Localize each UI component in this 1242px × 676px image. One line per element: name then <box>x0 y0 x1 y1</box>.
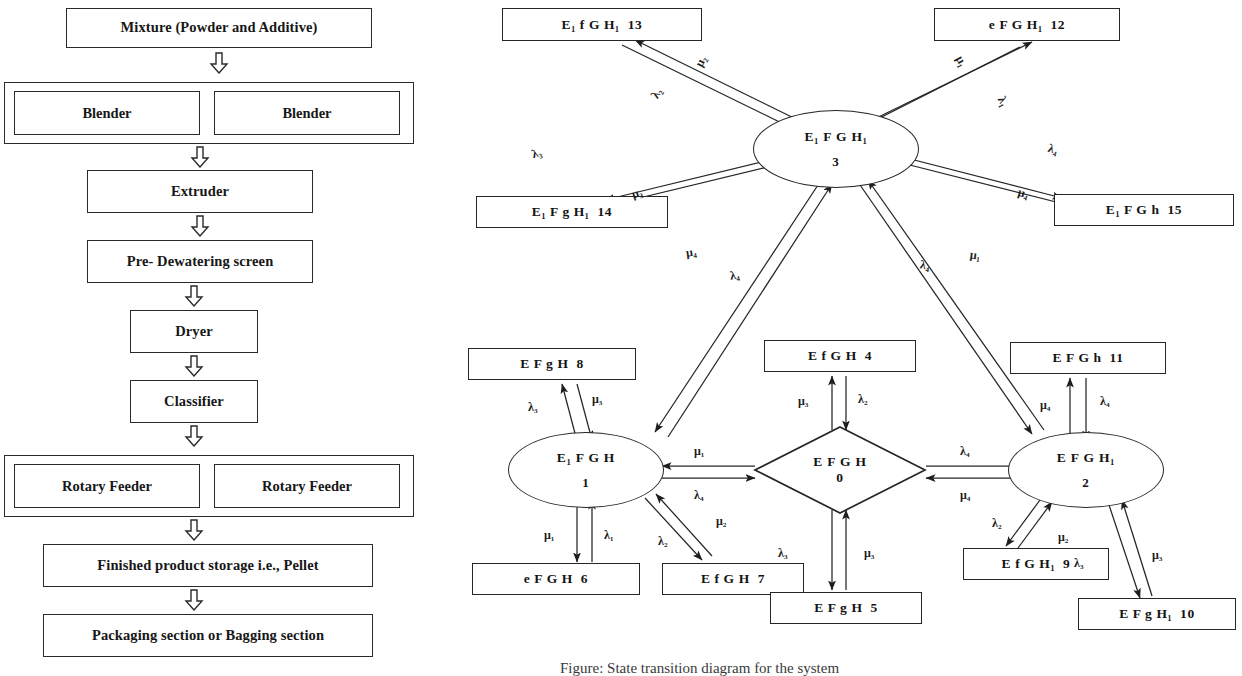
flow-step-dryer: Dryer <box>130 310 258 353</box>
edge-label-lambda4-node1-node0: λ₄ <box>694 488 704 503</box>
flow-step-label: Classifier <box>164 394 224 410</box>
edge-label-mu4-node0-node2: μ₄ <box>960 488 970 503</box>
flow-step-finished-product-storage: Finished product storage i.e., Pellet <box>43 544 373 587</box>
state-node-text: E₁ F G H₁ <box>804 129 867 145</box>
edge-label-mu1-node1-node0: μ₁ <box>694 444 704 459</box>
state-node-id: 1 <box>582 475 589 491</box>
state-node-text: E F g H₁ 10 <box>1119 606 1195 622</box>
state-node-id: 2 <box>1082 475 1089 491</box>
edge-label-mu2-node7: μ₂ <box>716 514 726 529</box>
state-node-4[interactable]: E f G H 4 <box>764 340 916 372</box>
state-node-label-group: E F G H 0 <box>752 424 928 516</box>
flow-step-mixture: Mixture (Powder and Additive) <box>66 8 372 48</box>
state-node-10[interactable]: E F g H₁ 10 <box>1078 598 1236 630</box>
state-node-6[interactable]: e F G H 6 <box>472 563 640 595</box>
flow-step-label: Blender <box>282 105 331 122</box>
state-node-7[interactable]: E f G H 7 <box>662 563 804 595</box>
down-block-arrow-icon <box>184 425 204 447</box>
state-node-5[interactable]: E F g H 5 <box>770 592 922 624</box>
edge-label-lambda3-node8: λ₃ <box>528 400 538 415</box>
state-node-text: E F g H 8 <box>520 356 584 372</box>
state-node-text: E₁ f G H₁ 13 <box>562 17 643 33</box>
flow-step-rotary-feeder-right: Rotary Feeder <box>214 464 400 508</box>
flow-step-label: Finished product storage i.e., Pellet <box>97 558 318 574</box>
flow-step-label: Pre- Dewatering screen <box>127 254 274 270</box>
edge-label-lambda3-node10: λ₃ <box>1074 556 1084 571</box>
down-block-arrow-icon <box>209 52 229 74</box>
edge-label-mu4-center-left: μ₄ <box>685 244 697 260</box>
flow-step-extruder: Extruder <box>87 170 313 213</box>
edge-label-lambda2-node7: λ₂ <box>658 534 668 549</box>
flow-step-pre-dewatering-screen: Pre- Dewatering screen <box>87 240 313 283</box>
edge-label-lambda4-center-left: λ₄ <box>729 267 740 283</box>
state-node-text: E F G h 11 <box>1052 350 1123 366</box>
edge-label-lambda2-node9: λ₂ <box>992 516 1002 531</box>
flow-step-label: Rotary Feeder <box>62 478 152 495</box>
state-node-text: E F G H <box>813 454 866 470</box>
state-node-text: E₁ F G h 15 <box>1106 202 1182 218</box>
flow-step-label: Dryer <box>175 324 213 340</box>
flow-step-blender-left: Blender <box>14 91 200 135</box>
state-node-text: E f G H 4 <box>808 348 872 364</box>
flow-step-classifier: Classifier <box>130 380 258 423</box>
state-node-text: E F G H₁ <box>1057 450 1115 466</box>
flow-step-label: Blender <box>82 105 131 122</box>
edge-label-mu3-node4: μ₃ <box>798 394 808 409</box>
edge-label-mu2-node9: μ₂ <box>1058 530 1068 545</box>
state-node-11[interactable]: E F G h 11 <box>1010 342 1166 374</box>
state-node-13[interactable]: E₁ f G H₁ 13 <box>502 8 702 41</box>
down-block-arrow-icon <box>184 355 204 377</box>
edge-label-lambda1-node6: λ₁ <box>604 528 614 543</box>
state-node-9[interactable]: E f G H₁ 9 <box>963 548 1109 580</box>
figure-caption: Figure: State transition diagram for the… <box>560 660 1200 676</box>
state-node-14[interactable]: E₁ F g H₁ 14 <box>476 196 668 228</box>
state-node-text: E₁ F G H <box>557 450 615 466</box>
state-node-text: E f G H₁ 9 <box>1002 556 1071 572</box>
process-flowchart: Mixture (Powder and Additive) Blender Bl… <box>0 0 440 675</box>
flow-step-blender-right: Blender <box>214 91 400 135</box>
flow-step-label: Extruder <box>171 184 229 200</box>
state-node-id: 0 <box>836 470 844 486</box>
edge-label-mu1-center-right: μ₁ <box>969 247 981 263</box>
state-node-id: 3 <box>832 154 839 170</box>
state-node-15[interactable]: E₁ F G h 15 <box>1054 194 1234 226</box>
down-block-arrow-icon <box>190 146 210 168</box>
flow-step-rotary-feeder-left: Rotary Feeder <box>14 464 200 508</box>
state-node-0[interactable]: E F G H 0 <box>752 424 928 516</box>
edge-label-mu1-node6: μ₁ <box>544 528 554 543</box>
state-node-text: E f G H 7 <box>701 571 765 587</box>
state-transition-diagram: E₁ f G H₁ 13 e F G H₁ 12 E₁ F g H₁ 14 E₁… <box>440 0 1242 675</box>
state-node-1[interactable]: E₁ F G H 1 <box>508 432 664 508</box>
flow-step-label: Packaging section or Bagging section <box>92 628 324 644</box>
edge-label-lambda4-center-right: λ₄ <box>919 257 930 273</box>
state-node-text: e F G H 6 <box>524 571 588 587</box>
state-node-text: E₁ F g H₁ 14 <box>532 204 612 220</box>
edge-label-lambda3-node5: λ₃ <box>778 546 788 561</box>
state-node-2[interactable]: E F G H₁ 2 <box>1008 432 1164 508</box>
flow-step-packaging-section: Packaging section or Bagging section <box>43 614 373 657</box>
down-block-arrow-icon <box>184 285 204 307</box>
state-node-8[interactable]: E F g H 8 <box>468 348 636 380</box>
state-node-text: E F g H 5 <box>814 600 878 616</box>
edge-label-mu4-node11: μ₄ <box>1040 398 1050 413</box>
edge-label-lambda4-node0-node2: λ₄ <box>960 444 970 459</box>
edge-label-lambda2-node4: λ₂ <box>858 392 868 407</box>
down-block-arrow-icon <box>184 589 204 611</box>
edge-label-mu3-node8: μ₃ <box>592 392 602 407</box>
edge-label-mu3-node5: μ₃ <box>864 546 874 561</box>
edge-label-lambda4-node11: λ₄ <box>1100 394 1110 409</box>
state-node-3[interactable]: E₁ F G H₁ 3 <box>753 110 919 188</box>
flow-step-label: Mixture (Powder and Additive) <box>121 20 318 36</box>
state-node-12[interactable]: e F G H₁ 12 <box>934 8 1120 41</box>
edge-label-mu3-node10: μ₃ <box>1152 548 1162 563</box>
down-block-arrow-icon <box>190 215 210 237</box>
flow-step-label: Rotary Feeder <box>262 478 352 495</box>
down-block-arrow-icon <box>184 519 204 541</box>
state-node-text: e F G H₁ 12 <box>989 17 1065 33</box>
